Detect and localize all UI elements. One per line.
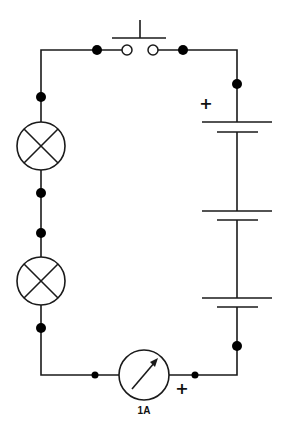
- switch-terminal-right: [148, 45, 158, 55]
- node-top-right: [178, 45, 188, 55]
- node-bottom-right: [192, 372, 199, 379]
- switch-terminal-left: [122, 45, 132, 55]
- circuit-diagram: + + 1A: [0, 0, 286, 440]
- ammeter-reading-label: 1A: [138, 405, 151, 416]
- battery-plus-label: +: [199, 94, 212, 113]
- ammeter-plus-label: +: [175, 379, 188, 398]
- ammeter: + 1A: [119, 350, 189, 416]
- wire-top-left: [41, 50, 126, 122]
- battery: +: [199, 94, 272, 307]
- node-left-mid-2: [36, 228, 46, 238]
- node-left-top: [36, 92, 46, 102]
- wire-top-right: [155, 50, 237, 122]
- node-left-mid-1: [36, 188, 46, 198]
- wire-bottom-left: [41, 305, 119, 375]
- node-top-left: [92, 45, 102, 55]
- node-left-bottom: [36, 323, 46, 333]
- lamp-1: [17, 122, 65, 170]
- node-right-bottom: [232, 341, 242, 351]
- lamp-2: [17, 257, 65, 305]
- wire-right-bottom: [169, 307, 237, 375]
- node-right-top: [232, 79, 242, 89]
- node-bottom-left: [92, 372, 99, 379]
